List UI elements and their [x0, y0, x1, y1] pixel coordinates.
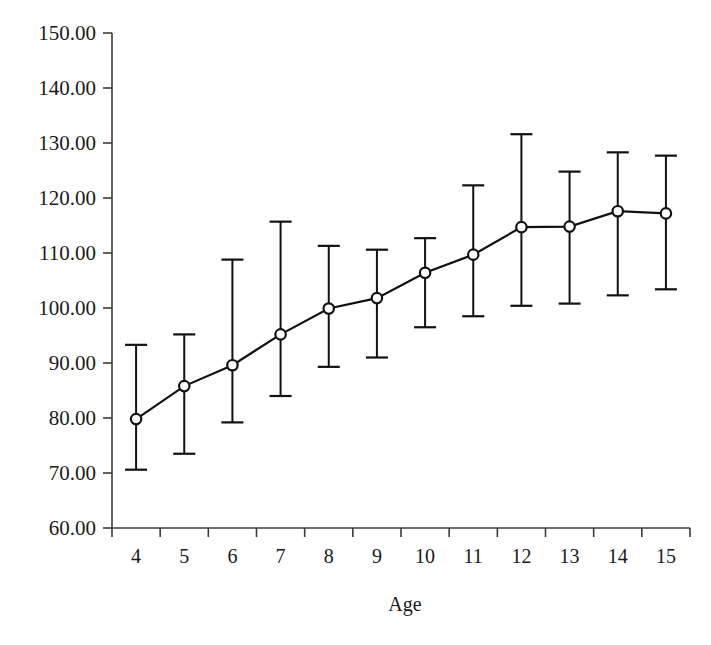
x-tick-label: 9 [372, 545, 382, 567]
y-axis-tick-labels: 60.0070.0080.0090.00100.00110.00120.0013… [38, 21, 96, 540]
data-point-marker [468, 249, 478, 259]
data-point-marker [324, 303, 334, 313]
data-point-marker [372, 293, 382, 303]
chart-canvas: 60.0070.0080.0090.00100.00110.00120.0013… [0, 0, 711, 645]
y-tick-label: 60.00 [49, 516, 96, 540]
y-tick-label: 70.00 [49, 461, 96, 485]
x-tick-label: 6 [227, 545, 237, 567]
data-point-marker [131, 414, 141, 424]
error-bar [655, 156, 677, 290]
y-tick-label: 150.00 [38, 21, 96, 45]
x-tick-label: 7 [276, 545, 286, 567]
data-point-marker [179, 381, 189, 391]
data-point-marker [564, 221, 574, 231]
x-tick-label: 13 [560, 545, 580, 567]
error-bar [270, 222, 292, 396]
error-bar [607, 152, 629, 295]
x-tick-label: 15 [656, 545, 676, 567]
series-line [136, 211, 666, 419]
x-axis-tick-labels: 456789101112131415 [131, 545, 676, 567]
x-tick-label: 10 [415, 545, 435, 567]
x-tick-label: 12 [511, 545, 531, 567]
y-tick-label: 120.00 [38, 186, 96, 210]
x-axis-title: Age [388, 593, 421, 616]
data-point-markers-group [131, 206, 671, 424]
x-tick-label: 5 [179, 545, 189, 567]
data-point-marker [420, 268, 430, 278]
y-tick-label: 90.00 [49, 351, 96, 375]
data-point-marker [227, 360, 237, 370]
y-tick-label: 110.00 [39, 241, 96, 265]
y-axis-tick-marks [103, 33, 112, 528]
y-tick-label: 140.00 [38, 76, 96, 100]
data-point-marker [275, 329, 285, 339]
error-bar [173, 334, 195, 453]
data-point-marker [516, 222, 526, 232]
x-tick-label: 14 [608, 545, 628, 567]
x-tick-label: 4 [131, 545, 141, 567]
y-tick-label: 130.00 [38, 131, 96, 155]
x-tick-label: 11 [464, 545, 483, 567]
data-point-marker [661, 208, 671, 218]
error-bar-line-chart: 60.0070.0080.0090.00100.00110.00120.0013… [0, 0, 711, 645]
y-tick-label: 100.00 [38, 296, 96, 320]
data-point-marker [613, 206, 623, 216]
error-bars-group [125, 134, 677, 470]
x-tick-label: 8 [324, 545, 334, 567]
error-bar [559, 172, 581, 304]
x-axis-tick-marks [112, 528, 690, 537]
error-bar [414, 238, 436, 327]
y-tick-label: 80.00 [49, 406, 96, 430]
error-bar [125, 345, 147, 470]
error-bar [510, 134, 532, 306]
series-line-group [136, 211, 666, 419]
error-bar [221, 260, 243, 423]
